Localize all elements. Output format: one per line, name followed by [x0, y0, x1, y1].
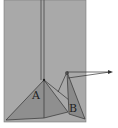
label-b: B — [69, 102, 77, 115]
diagram: A B — [0, 0, 118, 128]
pivot-point-a — [43, 79, 45, 81]
arrow-head-icon — [108, 70, 113, 74]
label-a: A — [31, 89, 41, 102]
